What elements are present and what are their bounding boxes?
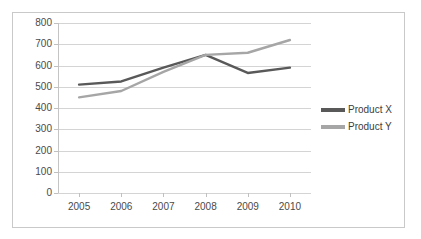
legend-item: Product X bbox=[321, 101, 407, 118]
legend-color-swatch bbox=[321, 125, 345, 129]
y-axis-tick-label: 700 bbox=[35, 39, 52, 49]
y-axis-tick-label: 200 bbox=[35, 146, 52, 156]
x-axis-tick-mark bbox=[79, 193, 80, 197]
x-axis-tick-label: 2010 bbox=[279, 202, 301, 212]
legend-label: Product Y bbox=[348, 122, 392, 132]
x-axis-tick-label: 2009 bbox=[237, 202, 259, 212]
series-line bbox=[79, 40, 290, 97]
x-axis-tick-mark bbox=[206, 193, 207, 197]
x-axis-tick-label: 2007 bbox=[152, 202, 174, 212]
y-axis-tick-label: 400 bbox=[35, 103, 52, 113]
x-axis-tick-label: 2008 bbox=[194, 202, 216, 212]
chart-figure: 0100200300400500600700800 20052006200720… bbox=[12, 12, 405, 228]
series-line bbox=[79, 55, 290, 85]
series-lines bbox=[58, 23, 311, 193]
y-axis-tick-label: 300 bbox=[35, 124, 52, 134]
x-axis-tick-label: 2005 bbox=[68, 202, 90, 212]
y-axis-tick-label: 600 bbox=[35, 61, 52, 71]
y-axis-tick-mark bbox=[54, 193, 58, 194]
legend-color-swatch bbox=[321, 108, 345, 112]
x-axis-tick-mark bbox=[121, 193, 122, 197]
y-axis-tick-label: 0 bbox=[46, 188, 52, 198]
chart-legend: Product XProduct Y bbox=[321, 101, 407, 135]
x-axis-tick-mark bbox=[290, 193, 291, 197]
y-axis-tick-label: 500 bbox=[35, 82, 52, 92]
x-axis-tick-label: 2006 bbox=[110, 202, 132, 212]
legend-label: Product X bbox=[348, 105, 392, 115]
legend-item: Product Y bbox=[321, 118, 407, 135]
gridline bbox=[58, 193, 311, 194]
y-axis-tick-label: 800 bbox=[35, 18, 52, 28]
y-axis-tick-label: 100 bbox=[35, 167, 52, 177]
plot-area: 0100200300400500600700800 20052006200720… bbox=[58, 23, 311, 193]
x-axis-tick-mark bbox=[163, 193, 164, 197]
x-axis-tick-mark bbox=[248, 193, 249, 197]
